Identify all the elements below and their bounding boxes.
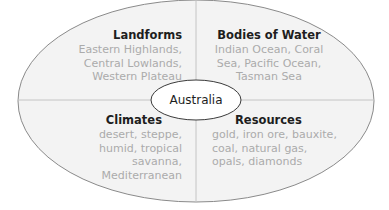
center-label: Australia: [150, 89, 242, 111]
quadrant-title: Resources: [212, 113, 352, 128]
quadrant-title: Bodies of Water: [210, 28, 328, 43]
quadrant-climates: Climates desert, steppe, humid, tropical…: [60, 113, 182, 182]
quadrant-line: savanna,: [60, 155, 182, 169]
quadrant-title: Landforms: [40, 28, 182, 43]
quadrant-line: opals, diamonds: [212, 155, 352, 169]
quadrant-line: Eastern Highlands,: [40, 43, 182, 57]
quadrant-landforms: Landforms Eastern Highlands, Central Low…: [40, 28, 182, 84]
quadrant-line: coal, natural gas,: [212, 142, 352, 156]
quadrant-line: Western Plateau: [40, 70, 182, 84]
quadrant-line: humid, tropical: [60, 142, 182, 156]
quadrant-line: desert, steppe,: [60, 128, 182, 142]
quadrant-line: Sea, Pacific Ocean,: [210, 57, 328, 71]
quadrant-line: Mediterranean: [60, 169, 182, 183]
quadrant-bodies-of-water: Bodies of Water Indian Ocean, Coral Sea,…: [210, 28, 328, 84]
quadrant-line: Central Lowlands,: [40, 57, 182, 71]
quadrant-line: Tasman Sea: [210, 70, 328, 84]
quadrant-title: Climates: [60, 113, 182, 128]
quadrant-resources: Resources gold, iron ore, bauxite, coal,…: [212, 113, 352, 169]
quadrant-line: gold, iron ore, bauxite,: [212, 128, 352, 142]
quadrant-line: Indian Ocean, Coral: [210, 43, 328, 57]
